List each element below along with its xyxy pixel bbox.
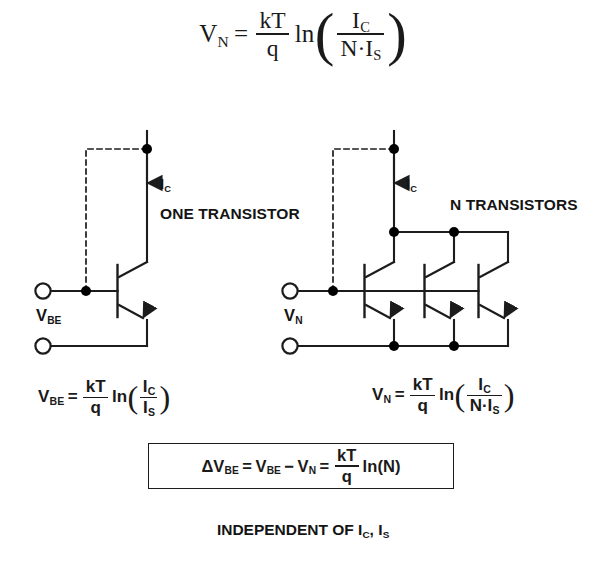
formula-vbe-single: VBE = kT q ln ( IC IS ) bbox=[38, 378, 170, 417]
right-bottom-terminal-circle[interactable] bbox=[282, 338, 297, 353]
right-terminal-label: VN bbox=[284, 306, 302, 325]
formula-box-equals-1: = bbox=[242, 457, 252, 476]
paren-close: ) bbox=[159, 385, 170, 411]
paren-close: ) bbox=[504, 383, 515, 409]
caption-sub-is: S bbox=[383, 521, 390, 538]
caption-text: INDEPENDENT OF I bbox=[217, 521, 363, 538]
formula-left-ratio: IC IS bbox=[140, 378, 157, 417]
formula-right-ratio: IC N·IS bbox=[467, 376, 501, 415]
right-collector-rail-node-2 bbox=[449, 227, 459, 237]
formula-left-lhs: VBE bbox=[38, 387, 64, 407]
right-top-terminal-circle[interactable] bbox=[282, 283, 297, 298]
formula-left-equals: = bbox=[68, 387, 78, 407]
formula-right-lhs: VN bbox=[372, 385, 391, 405]
formula-box-term-2: VN bbox=[298, 457, 316, 476]
t1-emitter-arrow bbox=[366, 305, 390, 318]
formula-right-ln: ln bbox=[439, 385, 454, 405]
formula-right-equals: = bbox=[395, 385, 405, 405]
t3-emitter-arrow bbox=[480, 305, 504, 318]
right-collector-node-dot bbox=[389, 144, 399, 154]
right-base-node-dot bbox=[328, 286, 338, 296]
right-circuit-group bbox=[299, 131, 508, 346]
right-circuit-title: N TRANSISTORS bbox=[450, 196, 578, 214]
t1-collector-slant bbox=[366, 262, 394, 277]
formula-box-kt-over-q: kT q bbox=[335, 447, 359, 485]
caption-sub-ic: C bbox=[362, 521, 369, 538]
left-circuit-group bbox=[52, 131, 147, 346]
left-top-terminal-circle[interactable] bbox=[35, 283, 50, 298]
paren-open: ( bbox=[454, 383, 465, 409]
t2-collector-slant bbox=[426, 262, 454, 277]
left-circuit-title: ONE TRANSISTOR bbox=[160, 205, 300, 223]
formula-box-equals-2: = bbox=[320, 457, 330, 476]
left-base-node-dot bbox=[81, 286, 91, 296]
t2-emitter-arrow bbox=[426, 305, 450, 318]
independence-caption: INDEPENDENT OF IC, IS bbox=[0, 521, 606, 539]
left-emitter-arrow bbox=[119, 305, 143, 318]
formula-box-ln: ln bbox=[363, 457, 378, 476]
formula-box-minus: − bbox=[284, 457, 294, 476]
formula-left-kt-over-q: kT q bbox=[83, 378, 108, 417]
diagram-canvas: VN = kT q ln ( IC N·IS ) bbox=[0, 0, 606, 568]
formula-box-lhs: VBE bbox=[213, 457, 238, 476]
t3-collector-slant bbox=[480, 262, 508, 277]
caption-comma: , I bbox=[370, 521, 383, 538]
right-emitter-rail-node-1 bbox=[389, 341, 399, 351]
formula-left-ln: ln bbox=[112, 387, 127, 407]
delta-symbol: Δ bbox=[201, 457, 213, 476]
formula-right-kt-over-q: kT q bbox=[410, 376, 435, 415]
left-terminal-label: VBE bbox=[36, 306, 61, 325]
formula-vn-parallel: VN = kT q ln ( IC N·IS ) bbox=[372, 376, 515, 415]
left-bottom-terminal-circle[interactable] bbox=[35, 338, 50, 353]
formula-box-term-1: VBE bbox=[255, 457, 280, 476]
left-collector-node-dot bbox=[142, 144, 152, 154]
formula-delta-vbe: Δ VBE = VBE − VN = kT q ln (N) bbox=[148, 443, 454, 489]
right-emitter-rail-node-2 bbox=[449, 341, 459, 351]
right-current-label: IC bbox=[406, 175, 417, 192]
paren-open: ( bbox=[128, 385, 139, 411]
right-collector-rail-node-1 bbox=[389, 227, 399, 237]
left-current-label: IC bbox=[160, 175, 171, 192]
left-collector-slant bbox=[119, 262, 147, 277]
formula-box-arg: (N) bbox=[378, 457, 401, 476]
